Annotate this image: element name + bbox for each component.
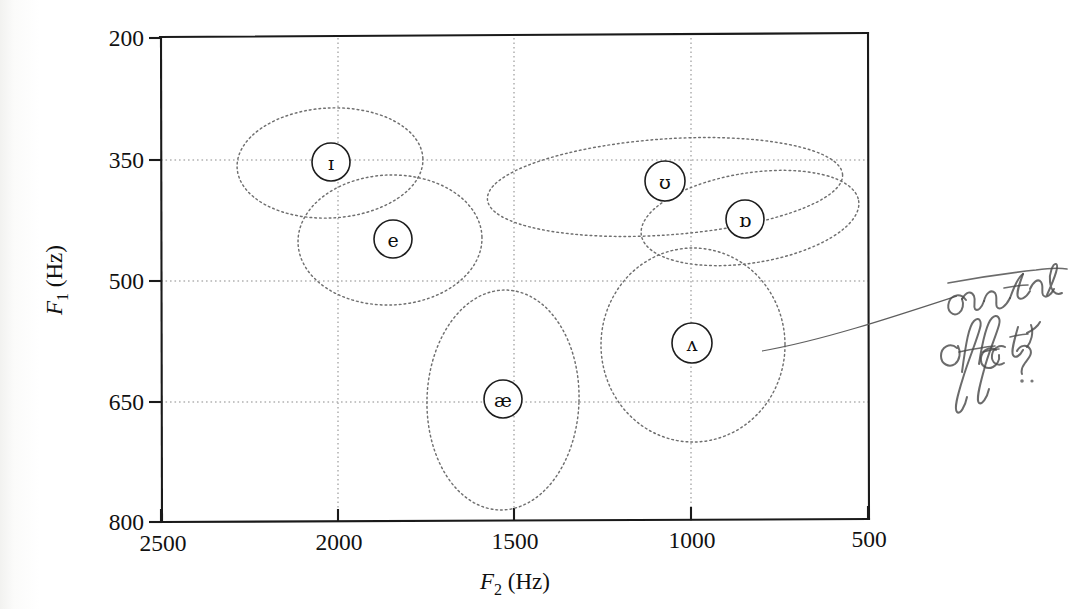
annotation-stray-pencil-dot: [1030, 379, 1033, 382]
vowel-marker-label: ɪ: [328, 152, 334, 174]
axis-right: [868, 33, 869, 519]
annotation-word-contextual: [948, 264, 1067, 314]
y-tick-label-3: 650: [109, 389, 144, 415]
vowel-marker-label: ɒ: [739, 209, 751, 231]
y-axis-ticks: [149, 38, 162, 522]
vowel-marker-label: e: [387, 229, 398, 251]
vowel-marker-small-capital-i[interactable]: ɪ: [312, 143, 350, 181]
axis-left: [161, 37, 162, 522]
x-axis-title-subscript: 2: [494, 581, 502, 598]
annotation-leader-line: [762, 296, 957, 351]
vowel-marker-label: ʊ: [659, 171, 671, 193]
x-tick-label-4: 500: [851, 526, 886, 552]
vowel-marker-ash[interactable]: æ: [484, 380, 522, 418]
y-tick-label-1: 350: [109, 147, 144, 173]
vowel-marker-e[interactable]: e: [374, 220, 412, 258]
y-axis-title-unit-text: (Hz): [42, 245, 67, 287]
vowel-marker-turned-v[interactable]: ʌ: [672, 323, 712, 363]
axis-top: [160, 33, 868, 37]
y-axis-title: F1 (Hz): [42, 245, 71, 316]
annotation-question-mark: [1017, 346, 1031, 383]
vowel-marker-upsilon[interactable]: ʊ: [645, 161, 685, 201]
vowel-markers: ɪ e ʊ ɒ ʌ æ: [312, 143, 764, 418]
y-axis-tick-labels: 200 350 500 650 800: [109, 25, 144, 535]
vowel-marker-label: æ: [494, 389, 512, 411]
y-axis-title-subscript: 1: [54, 293, 71, 301]
handwritten-annotation: [762, 264, 1067, 413]
x-tick-label-2: 1500: [492, 528, 539, 554]
x-tick-label-1: 2000: [316, 529, 363, 555]
y-tick-label-2: 500: [109, 268, 144, 294]
x-axis-title-letter: F: [479, 569, 495, 594]
x-axis-title: F2 (Hz): [479, 569, 550, 598]
y-tick-label-0: 200: [109, 25, 144, 51]
vowel-formant-scatter-plot: 200 350 500 650 800 2500 2000 1500 1000 …: [0, 0, 1071, 609]
annotation-question-dot: [1020, 379, 1024, 383]
x-tick-label-0: 2500: [140, 530, 187, 556]
vowel-marker-turned-script-a[interactable]: ɒ: [726, 200, 764, 238]
vowel-marker-label: ʌ: [686, 333, 698, 355]
x-axis-tick-labels: 2500 2000 1500 1000 500: [140, 526, 887, 556]
x-axis-title-unit-text: (Hz): [508, 569, 550, 594]
y-axis-title-letter: F: [42, 300, 67, 316]
figure-page: 200 350 500 650 800 2500 2000 1500 1000 …: [0, 0, 1071, 609]
x-tick-label-3: 1000: [669, 527, 716, 553]
